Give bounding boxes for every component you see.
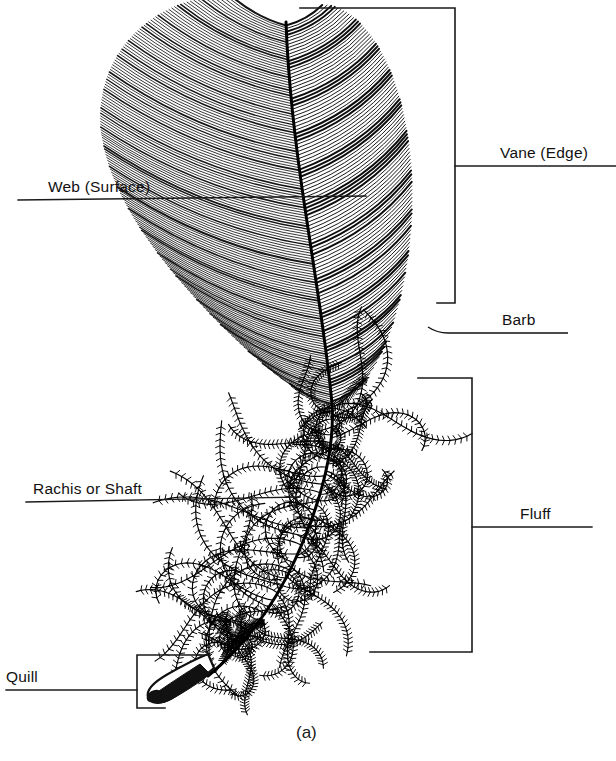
figure-caption: (a): [296, 723, 317, 742]
label-rachis-or-shaft: Rachis or Shaft: [33, 480, 142, 497]
label-vane-edge: Vane (Edge): [500, 144, 588, 161]
feather-anatomy-figure: Vane (Edge) Web (Surface) Barb Fluff Rac…: [0, 0, 616, 761]
label-quill: Quill: [6, 668, 38, 685]
label-fluff: Fluff: [520, 505, 551, 522]
label-barb: Barb: [502, 311, 536, 328]
feather-diagram-svg: Vane (Edge) Web (Surface) Barb Fluff Rac…: [0, 0, 616, 761]
label-web-surface: Web (Surface): [48, 178, 150, 195]
